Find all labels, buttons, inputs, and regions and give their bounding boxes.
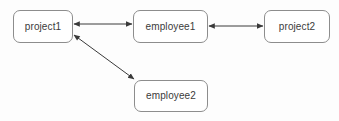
node-project1[interactable]: project1 [13, 10, 73, 43]
node-employee2-label: employee2 [146, 91, 196, 101]
node-project2[interactable]: project2 [264, 10, 330, 43]
diagram-canvas: project1 employee1 project2 employee2 [0, 0, 339, 121]
node-employee1-label: employee1 [146, 22, 196, 32]
node-employee1[interactable]: employee1 [133, 10, 208, 43]
node-project1-label: project1 [25, 22, 61, 32]
node-project2-label: project2 [279, 22, 315, 32]
node-employee2[interactable]: employee2 [134, 80, 208, 112]
edge-project1-employee2 [74, 35, 134, 79]
